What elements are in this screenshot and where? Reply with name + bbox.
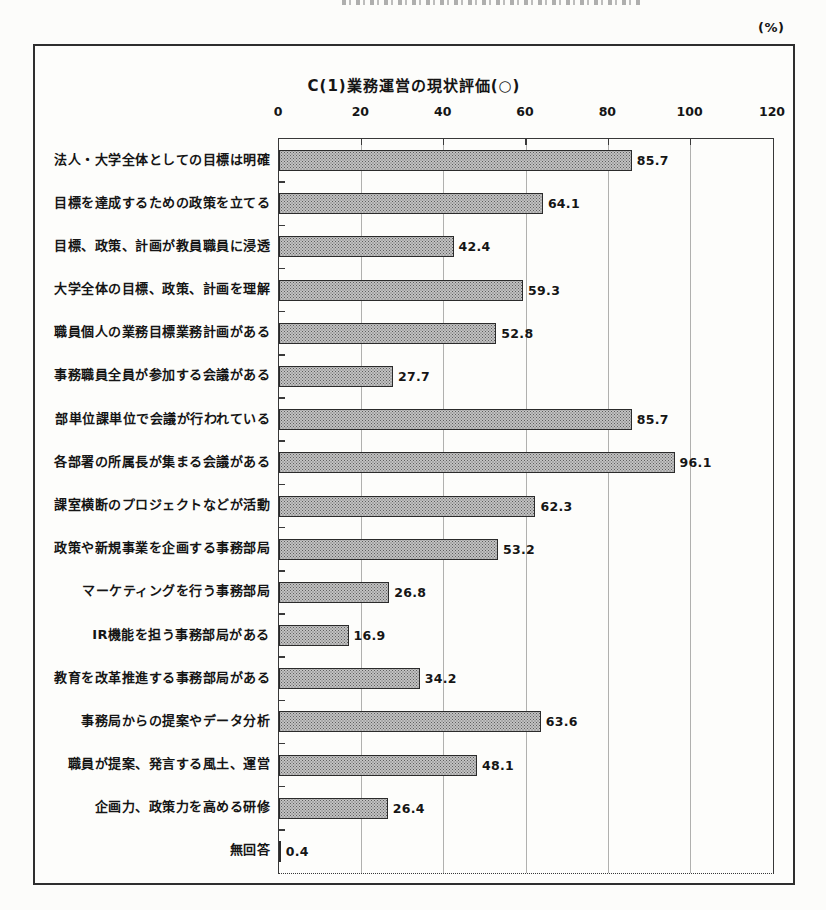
plot-area: 85.764.142.459.352.827.785.796.162.353.2… [278, 138, 774, 874]
value-label: 63.6 [546, 711, 578, 732]
category-label: 事務職員全員が参加する会議がある [41, 365, 270, 385]
value-label: 85.7 [637, 150, 669, 171]
category-label: 目標を達成するための政策を立てる [41, 193, 270, 213]
value-label: 85.7 [637, 409, 669, 430]
x-tick-label: 20 [340, 104, 380, 119]
axis-tick-mark [690, 139, 692, 145]
value-label: 53.2 [503, 539, 535, 560]
category-boundary-tick [279, 181, 285, 183]
value-label: 52.8 [501, 323, 533, 344]
value-label: 27.7 [398, 366, 430, 387]
x-axis: 020406080100120 [278, 104, 772, 124]
value-label: 26.4 [393, 798, 425, 819]
cropped-heading-remnant [342, 0, 642, 5]
category-label: 部単位課単位で会議が行われている [41, 409, 270, 429]
category-boundary-tick [279, 786, 285, 788]
x-tick-label: 60 [505, 104, 545, 119]
bar [279, 150, 632, 171]
axis-tick-mark [443, 139, 445, 145]
value-label: 0.4 [286, 841, 309, 862]
value-label: 42.4 [459, 236, 491, 257]
category-label: 事務局からの提案やデータ分析 [41, 711, 270, 731]
bar [279, 193, 543, 214]
bar [279, 409, 632, 430]
category-boundary-tick [279, 656, 285, 658]
category-label: 職員が提案、発言する風土、運営 [41, 754, 270, 774]
category-label: IR機能を担う事務部局がある [41, 625, 270, 645]
chart-title: C(1)業務運営の現状評価(○) [35, 74, 793, 95]
axis-tick-mark [361, 139, 363, 145]
x-tick-label: 120 [752, 104, 792, 119]
category-boundary-tick [279, 743, 285, 745]
category-labels: 法人・大学全体としての目標は明確目標を達成するための政策を立てる目標、政策、計画… [35, 138, 270, 872]
bar [279, 236, 454, 257]
category-boundary-tick [279, 570, 285, 572]
bar [279, 798, 388, 819]
category-label: 教育を改革推進する事務部局がある [41, 668, 270, 688]
value-label: 26.8 [394, 582, 426, 603]
bar [279, 668, 420, 689]
category-boundary-tick [279, 225, 285, 227]
percent-unit-label: (%) [758, 20, 784, 35]
category-label: 課室横断のプロジェクトなどが活動 [41, 495, 270, 515]
category-boundary-tick [279, 700, 285, 702]
category-boundary-tick [279, 311, 285, 313]
chart-frame: C(1)業務運営の現状評価(○) 020406080100120 85.764.… [33, 44, 795, 885]
category-boundary-tick [279, 397, 285, 399]
category-label: 企画力、政策力を高める研修 [41, 797, 270, 817]
category-boundary-tick [279, 527, 285, 529]
category-boundary-tick [279, 829, 285, 831]
bar [279, 755, 477, 776]
axis-tick-mark [608, 139, 610, 145]
category-label: 目標、政策、計画が教員職員に浸透 [41, 236, 270, 256]
category-label: 法人・大学全体としての目標は明確 [41, 150, 270, 170]
category-label: 政策や新規事業を企画する事務部局 [41, 538, 270, 558]
gridline [608, 139, 609, 873]
bar [279, 539, 498, 560]
category-boundary-tick [279, 613, 285, 615]
category-boundary-tick [279, 484, 285, 486]
bar [279, 582, 389, 603]
bar [279, 452, 675, 473]
x-tick-label: 0 [258, 104, 298, 119]
bar [279, 280, 523, 301]
category-boundary-tick [279, 354, 285, 356]
value-label: 59.3 [528, 280, 560, 301]
value-label: 64.1 [548, 193, 580, 214]
value-label: 16.9 [354, 625, 386, 646]
bar [279, 496, 535, 517]
value-label: 34.2 [425, 668, 457, 689]
bar [279, 366, 393, 387]
gridline [690, 139, 691, 873]
category-boundary-tick [279, 268, 285, 270]
value-label: 96.1 [680, 452, 712, 473]
value-label: 62.3 [540, 496, 572, 517]
value-label: 48.1 [482, 755, 514, 776]
category-label: 各部署の所属長が集まる会議がある [41, 452, 270, 472]
category-boundary-tick [279, 440, 285, 442]
bar [279, 841, 281, 862]
axis-tick-mark [525, 139, 527, 145]
bar [279, 323, 496, 344]
bar [279, 711, 541, 732]
x-tick-label: 80 [587, 104, 627, 119]
bar-chart: C(1)業務運営の現状評価(○) 020406080100120 85.764.… [35, 46, 793, 883]
category-label: 無回答 [41, 840, 270, 860]
bar [279, 625, 349, 646]
x-tick-label: 100 [670, 104, 710, 119]
scanned-chart-page: (%) C(1)業務運営の現状評価(○) 020406080100120 85.… [0, 0, 826, 910]
category-label: 職員個人の業務目標業務計画がある [41, 322, 270, 342]
x-tick-label: 40 [423, 104, 463, 119]
category-label: マーケティングを行う事務部局 [41, 581, 270, 601]
category-label: 大学全体の目標、政策、計画を理解 [41, 279, 270, 299]
